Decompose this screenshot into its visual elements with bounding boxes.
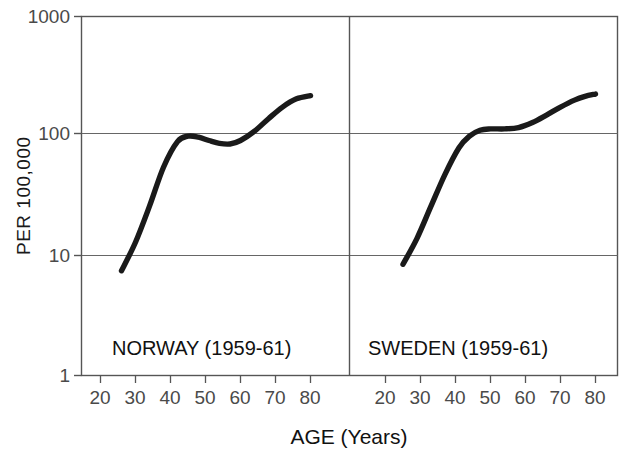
x-tick-label: 70 bbox=[264, 387, 285, 408]
x-tick-label: 70 bbox=[549, 387, 570, 408]
chart-svg: 1000 100 10 1 PER 100,000 20 30 40 50 60… bbox=[0, 0, 633, 459]
x-tick-label: 80 bbox=[299, 387, 320, 408]
x-tick-label: 80 bbox=[584, 387, 605, 408]
x-tick-label: 20 bbox=[89, 387, 110, 408]
x-tick-label: 60 bbox=[514, 387, 535, 408]
x-tick-label: 30 bbox=[124, 387, 145, 408]
panel-label-sweden: SWEDEN (1959-61) bbox=[368, 337, 548, 359]
x-tick-label: 60 bbox=[229, 387, 250, 408]
y-tick-label: 1 bbox=[59, 365, 70, 386]
y-tick-label: 1000 bbox=[28, 6, 70, 27]
x-tick-label: 40 bbox=[159, 387, 180, 408]
x-tick-label: 20 bbox=[374, 387, 395, 408]
x-axis-title: AGE (Years) bbox=[290, 425, 407, 448]
x-tick-label: 50 bbox=[194, 387, 215, 408]
y-axis-title: PER 100,000 bbox=[13, 136, 34, 255]
y-tick-label: 100 bbox=[38, 123, 70, 144]
y-axis-title-text: PER 100,000 bbox=[13, 136, 34, 255]
x-axis-title-text: AGE (Years) bbox=[290, 425, 407, 448]
y-tick-label: 10 bbox=[49, 245, 70, 266]
x-tick-label: 50 bbox=[479, 387, 500, 408]
panel-label-norway: NORWAY (1959-61) bbox=[112, 337, 291, 359]
x-tick-label: 30 bbox=[409, 387, 430, 408]
chart-figure: 1000 100 10 1 PER 100,000 20 30 40 50 60… bbox=[0, 0, 633, 459]
x-tick-label: 40 bbox=[444, 387, 465, 408]
